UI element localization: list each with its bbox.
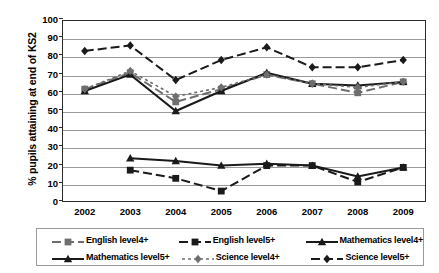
y-tick-label: 10 — [26, 179, 58, 188]
data-point-marker — [324, 254, 331, 262]
data-point-marker — [191, 238, 198, 245]
legend-item-label: Science level4+ — [216, 252, 280, 262]
data-point-marker — [194, 254, 201, 262]
legend-item-label: English level4+ — [86, 235, 148, 245]
chart-container: % pupils attaining at end of KS2 1009080… — [0, 0, 439, 273]
y-tick-label: 30 — [26, 142, 58, 151]
data-point-marker — [218, 188, 225, 195]
y-tick-label: 100 — [26, 15, 58, 24]
x-tick-label: 2005 — [198, 206, 244, 217]
legend-item-science-level4-[interactable]: Science level4+ — [173, 248, 303, 265]
data-point-marker — [263, 43, 270, 51]
x-tick-label: 2007 — [289, 206, 335, 217]
series-mathematics-level5- — [126, 154, 407, 180]
chart-legend: English level4+English level5+Mathematic… — [36, 228, 424, 266]
y-tick-label: 60 — [26, 88, 58, 97]
y-tick-label: 20 — [26, 161, 58, 170]
legend-item-label: English level5+ — [213, 235, 275, 245]
legend-item-label: Mathematics level5+ — [86, 252, 170, 262]
legend-item-label: Science level5+ — [345, 252, 409, 262]
data-point-marker — [81, 47, 88, 55]
x-tick-label: 2008 — [335, 206, 381, 217]
y-tick-label: 0 — [26, 197, 58, 206]
data-point-marker — [309, 63, 316, 71]
legend-row-1: English level4+English level5+Mathematic… — [37, 231, 423, 248]
y-tick-mark — [59, 18, 63, 19]
legend-key-diamond-icon — [181, 251, 215, 263]
data-point-marker — [172, 175, 179, 182]
legend-item-english-level5-[interactable]: English level5+ — [170, 231, 297, 248]
series-line — [130, 166, 403, 191]
data-point-marker — [354, 63, 361, 71]
series-layer — [62, 20, 426, 202]
y-tick-label: 90 — [26, 33, 58, 42]
y-tick-label: 40 — [26, 124, 58, 133]
data-point-marker — [65, 238, 72, 245]
legend-key-triangle-icon — [51, 251, 85, 263]
x-tick-label: 2002 — [62, 206, 108, 217]
data-point-marker — [400, 56, 407, 64]
legend-item-english-level4-[interactable]: English level4+ — [37, 231, 170, 248]
legend-item-mathematics-level5-[interactable]: Mathematics level5+ — [37, 248, 173, 265]
legend-key-triangle-icon — [305, 234, 339, 246]
y-tick-label: 80 — [26, 51, 58, 60]
data-point-marker — [127, 167, 134, 174]
x-tick-label: 2004 — [153, 206, 199, 217]
series-science-level5- — [81, 41, 407, 84]
x-tick-label: 2003 — [107, 206, 153, 217]
y-tick-label: 50 — [26, 106, 58, 115]
x-axis-tick-labels: 20022003200420052006200720082009 — [62, 206, 426, 222]
legend-key-square-icon — [51, 234, 85, 246]
legend-item-science-level5-[interactable]: Science level5+ — [302, 248, 423, 265]
legend-row-2: Mathematics level5+Science level4+Scienc… — [37, 248, 423, 265]
legend-item-label: Mathematics level4+ — [340, 235, 424, 245]
data-point-marker — [218, 56, 225, 64]
y-tick-label: 70 — [26, 70, 58, 79]
legend-item-mathematics-level4-[interactable]: Mathematics level4+ — [297, 231, 424, 248]
series-english-level5- — [127, 162, 407, 194]
legend-key-square-icon — [178, 234, 212, 246]
x-tick-label: 2006 — [244, 206, 290, 217]
legend-key-diamond-icon — [310, 251, 344, 263]
data-point-marker — [127, 41, 134, 49]
x-tick-label: 2009 — [380, 206, 426, 217]
